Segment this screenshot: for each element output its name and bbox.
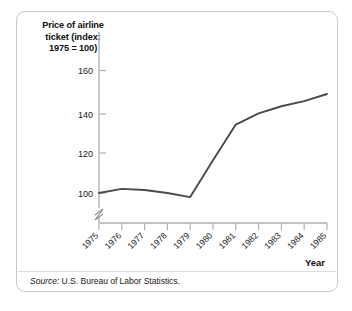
- x-tick-label-1980: 1980: [194, 230, 215, 251]
- source-label: Source:: [30, 276, 59, 286]
- x-tick-label-1983: 1983: [262, 230, 283, 251]
- y-axis-ticks: [99, 71, 106, 194]
- price-index-line: [99, 94, 327, 197]
- x-tick-label-1975: 1975: [80, 230, 101, 251]
- source-value: U.S. Bureau of Labor Statistics.: [59, 276, 180, 286]
- source-note: Source: U.S. Bureau of Labor Statistics.: [30, 276, 180, 286]
- x-tick-label-1977: 1977: [125, 230, 146, 251]
- line-chart-plot: 160 140 120 100 1975 1976 1977 1978 1979…: [17, 12, 339, 293]
- x-axis-ticks: [99, 223, 327, 230]
- y-tick-label-140: 140: [78, 110, 93, 120]
- x-tick-label-1984: 1984: [285, 230, 306, 251]
- x-axis-title: Year: [305, 257, 325, 268]
- x-tick-label-1981: 1981: [217, 230, 238, 251]
- x-tick-label-1985: 1985: [308, 230, 329, 251]
- y-tick-label-120: 120: [78, 149, 93, 159]
- y-tick-label-100: 100: [78, 189, 93, 199]
- source-divider: [18, 271, 336, 272]
- x-tick-label-1978: 1978: [148, 230, 169, 251]
- x-tick-label-1979: 1979: [171, 230, 192, 251]
- figure-panel: Price of airline ticket (index: 1975 = 1…: [16, 11, 338, 292]
- x-tick-label-1976: 1976: [103, 230, 124, 251]
- x-tick-label-1982: 1982: [239, 230, 260, 251]
- y-tick-label-160: 160: [78, 66, 93, 76]
